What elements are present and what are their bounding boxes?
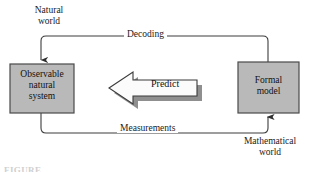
mathematical-world-line-1: Mathematical bbox=[228, 136, 312, 147]
label-natural-world: Natural world bbox=[14, 5, 84, 26]
edge-decoding bbox=[41, 36, 268, 62]
figure-caption: FIGURE bbox=[4, 165, 41, 172]
natural-world-line-1: Natural bbox=[14, 5, 84, 16]
label-mathematical-world: Mathematical world bbox=[228, 136, 312, 157]
edge-label-decoding: Decoding bbox=[124, 29, 167, 39]
natural-world-line-2: world bbox=[14, 16, 84, 27]
edge-label-measurements: Measurements bbox=[117, 123, 178, 133]
diagram-canvas: Natural world Mathematical world Observa… bbox=[0, 0, 312, 172]
edge-label-predict: Predict bbox=[151, 78, 179, 89]
node-observable-natural-system bbox=[10, 64, 74, 113]
node-formal-model bbox=[238, 62, 299, 113]
observable-system-box bbox=[10, 64, 74, 113]
decoding-connector-line bbox=[41, 36, 268, 62]
formal-model-box bbox=[238, 62, 299, 113]
mathematical-world-line-2: world bbox=[228, 147, 312, 158]
